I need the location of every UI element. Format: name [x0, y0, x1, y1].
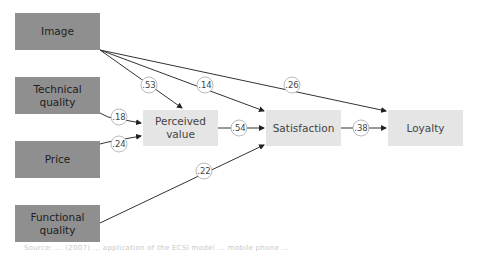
coef-price-pv: .24 — [111, 136, 127, 152]
node-price-label: Price — [45, 153, 71, 166]
coef-image-pv: .53 — [141, 77, 157, 93]
node-price: Price — [15, 141, 100, 178]
svg-text:.54: .54 — [232, 123, 246, 133]
node-technical-quality: Technical quality — [15, 77, 100, 114]
node-image: Image — [15, 13, 100, 50]
node-loyalty-label: Loyalty — [407, 122, 445, 135]
node-functional-quality: Functional quality — [15, 205, 100, 242]
coef-image-loy: .26 — [284, 77, 300, 93]
coef-func-sat: .22 — [196, 163, 212, 179]
node-perceived-value-label-1: Perceived — [155, 115, 206, 128]
node-satisfaction: Satisfaction — [266, 110, 341, 146]
svg-text:.53: .53 — [142, 80, 156, 90]
svg-text:.24: .24 — [112, 139, 126, 149]
node-perceived-value: Perceived value — [143, 110, 218, 146]
node-loyalty: Loyalty — [388, 110, 463, 146]
coef-sat-loy: .38 — [353, 120, 369, 136]
coef-image-sat: .14 — [197, 77, 213, 93]
node-functional-quality-label-2: quality — [40, 224, 76, 237]
node-satisfaction-label: Satisfaction — [273, 122, 335, 135]
node-image-label: Image — [41, 25, 74, 38]
node-technical-quality-label-1: Technical — [33, 83, 81, 96]
node-perceived-value-label-2: value — [166, 128, 195, 141]
coef-pv-sat: .54 — [231, 120, 247, 136]
edge-functional-quality-satisfaction — [100, 145, 264, 223]
coef-tech-pv: .18 — [111, 109, 127, 125]
figure-caption: Source: ... (2007) ... application of th… — [24, 244, 289, 252]
edge-image-satisfaction — [100, 50, 264, 111]
svg-text:.26: .26 — [285, 80, 299, 90]
node-functional-quality-label-1: Functional — [30, 211, 84, 224]
svg-text:.38: .38 — [354, 123, 368, 133]
svg-text:.14: .14 — [198, 80, 212, 90]
svg-text:.22: .22 — [197, 166, 211, 176]
node-technical-quality-label-2: quality — [40, 96, 76, 109]
svg-text:.18: .18 — [112, 112, 126, 122]
